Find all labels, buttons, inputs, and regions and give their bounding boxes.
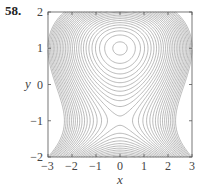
y-tick-label: −1 <box>30 115 43 127</box>
y-tick-label: 1 <box>37 42 43 54</box>
x-tick-label: −1 <box>89 160 102 172</box>
x-tick-label: 1 <box>141 160 147 172</box>
contour-plot <box>0 0 208 193</box>
y-tick-label: 2 <box>37 6 43 18</box>
contour-lines <box>48 12 192 157</box>
contour-path <box>48 12 192 157</box>
y-tick-label: 0 <box>37 79 43 91</box>
x-tick-label: 0 <box>117 160 123 172</box>
x-tick-label: 2 <box>165 160 171 172</box>
x-tick-label: 3 <box>189 160 195 172</box>
y-axis-title: y <box>25 76 31 92</box>
y-tick-label: −2 <box>30 151 43 163</box>
x-axis-title: x <box>117 172 123 188</box>
x-tick-label: −2 <box>65 160 78 172</box>
